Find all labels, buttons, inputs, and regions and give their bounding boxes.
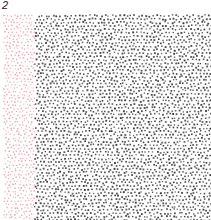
red-dot-strip: [3, 14, 35, 219]
black-dot-field: [34, 14, 211, 220]
dot-pattern-field: [0, 0, 211, 220]
